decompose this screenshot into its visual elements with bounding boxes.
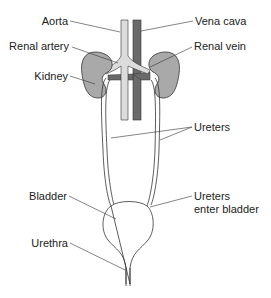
bladder	[103, 202, 153, 285]
label-vena-cava: Vena cava	[195, 15, 247, 27]
label-renal-vein: Renal vein	[194, 40, 246, 52]
label-ureters-enter-2: enter bladder	[194, 203, 259, 215]
urinary-system-diagram: Aorta Vena cava Renal artery Renal vein …	[0, 0, 271, 298]
ureters	[101, 78, 159, 206]
label-bladder: Bladder	[29, 190, 67, 202]
kidney-right	[149, 52, 180, 98]
label-renal-artery: Renal artery	[9, 40, 69, 52]
label-urethra: Urethra	[31, 237, 69, 249]
label-aorta: Aorta	[42, 15, 69, 27]
aorta	[104, 20, 150, 120]
label-kidney: Kidney	[34, 70, 68, 82]
label-ureters: Ureters	[194, 121, 231, 133]
kidney-left	[82, 52, 113, 98]
label-ureters-enter-1: Ureters	[194, 190, 231, 202]
